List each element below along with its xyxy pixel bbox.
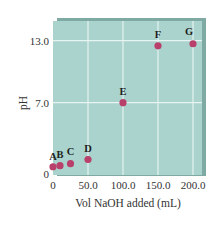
- marker-dot: [49, 163, 56, 170]
- y-tick-label: 7.0: [35, 97, 49, 109]
- titration-chart: ABCDEFG 050.0100.0150.0200.0 07.013.0 Vo…: [0, 0, 222, 227]
- y-tick-label: 0: [44, 168, 50, 180]
- marker-dot: [56, 162, 63, 169]
- marker-dot: [154, 42, 161, 49]
- plot-area: [53, 21, 202, 175]
- marker-dot: [189, 40, 196, 47]
- x-tick-label: 100.0: [111, 179, 136, 191]
- point-label: C: [67, 146, 75, 157]
- point-label: B: [56, 149, 63, 160]
- point-label: G: [185, 26, 193, 37]
- y-axis-label: pH: [17, 96, 30, 110]
- point-label: F: [155, 29, 161, 40]
- data-point-c: C: [67, 146, 75, 168]
- x-tick-label: 200.0: [181, 179, 206, 191]
- marker-dot: [67, 160, 74, 167]
- y-tick-label: 13.0: [30, 35, 50, 47]
- y-axis-ticks: 07.013.0: [30, 35, 50, 180]
- point-label: D: [84, 143, 92, 154]
- marker-dot: [119, 99, 126, 106]
- data-point-b: B: [56, 149, 63, 170]
- x-tick-label: 0: [50, 179, 56, 191]
- data-point-d: D: [84, 143, 92, 164]
- x-tick-label: 150.0: [146, 179, 171, 191]
- data-point-f: F: [154, 29, 161, 50]
- marker-dot: [84, 156, 91, 163]
- x-axis-label: Vol NaOH added (mL): [75, 197, 181, 210]
- data-point-e: E: [119, 86, 126, 107]
- x-tick-label: 50.0: [78, 179, 98, 191]
- point-label: E: [119, 86, 126, 97]
- x-axis-ticks: 050.0100.0150.0200.0: [50, 179, 206, 191]
